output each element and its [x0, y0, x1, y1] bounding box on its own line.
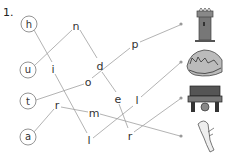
svg-text:h: h [26, 19, 32, 30]
start-letter-t: t [20, 93, 36, 109]
hat-icon [187, 50, 222, 76]
letter-n: n [73, 20, 80, 33]
letter-i: i [51, 63, 54, 76]
bench-icon [188, 86, 222, 112]
start-letter-u: u [20, 62, 36, 78]
tower-icon [195, 8, 215, 42]
svg-text:a: a [25, 131, 31, 142]
start-letter-a: a [20, 129, 36, 145]
letter-d: d [97, 60, 104, 73]
letter-l-bottom: l [87, 134, 90, 147]
word-path-puzzle: h u t a n i d o p r m e l l r [0, 0, 228, 159]
connecting-lines [34, 25, 180, 138]
letter-p: p [132, 38, 139, 51]
letter-e: e [115, 93, 122, 106]
svg-text:u: u [25, 64, 31, 75]
wing-icon [198, 121, 214, 152]
letter-m: m [89, 107, 100, 120]
letter-r: r [55, 99, 60, 112]
letter-o: o [85, 76, 92, 89]
letter-r-bottom: r [128, 130, 133, 143]
svg-text:t: t [26, 96, 30, 107]
letter-l: l [135, 94, 138, 107]
start-letter-h: h [21, 16, 37, 32]
